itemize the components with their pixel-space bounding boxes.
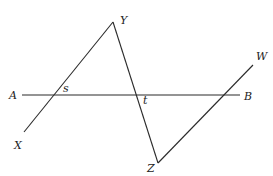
- label-s: s: [63, 82, 69, 95]
- geometry-diagram: A B X Y Z W s t: [0, 0, 273, 176]
- diagram-svg: A B X Y Z W s t: [0, 0, 273, 176]
- label-z: Z: [146, 162, 155, 175]
- segment-zw: [158, 65, 253, 163]
- label-a: A: [8, 89, 17, 102]
- label-b: B: [243, 90, 252, 103]
- segment-xy: [24, 22, 113, 132]
- label-y: Y: [120, 14, 129, 27]
- label-t: t: [143, 94, 148, 107]
- segment-yz: [113, 22, 158, 163]
- label-w: W: [256, 50, 269, 63]
- label-x: X: [13, 139, 23, 152]
